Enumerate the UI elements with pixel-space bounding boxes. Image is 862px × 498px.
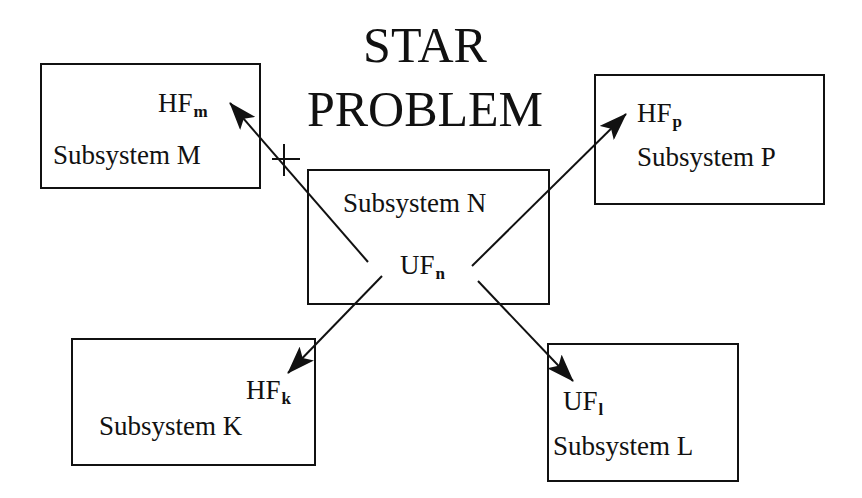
- subsystem-m-label: Subsystem M: [53, 140, 201, 170]
- subsystem-p-factor: HFp: [637, 98, 682, 137]
- subsystem-p-box: [594, 74, 825, 205]
- subsystem-k-label: Subsystem K: [99, 411, 242, 441]
- subsystem-k-factor: HFk: [246, 375, 291, 414]
- diagram-title: STAR PROBLEM: [290, 18, 560, 136]
- subsystem-m-box: [40, 63, 261, 189]
- subsystem-l-factor: UFl: [563, 386, 603, 425]
- subsystem-n-factor: UFn: [400, 250, 445, 289]
- factor-label: HF: [158, 88, 193, 118]
- subsystem-n-label: Subsystem N: [343, 188, 486, 218]
- factor-label: HF: [637, 98, 672, 128]
- factor-label: UF: [400, 250, 435, 280]
- title-line-1: STAR: [290, 18, 560, 72]
- factor-subscript: k: [282, 389, 291, 408]
- factor-subscript: l: [599, 400, 604, 419]
- factor-subscript: p: [673, 112, 682, 131]
- factor-label: UF: [563, 386, 598, 416]
- title-line-2: PROBLEM: [290, 82, 560, 136]
- factor-subscript: n: [436, 264, 445, 283]
- factor-subscript: m: [194, 102, 208, 121]
- subsystem-p-label: Subsystem P: [637, 142, 776, 172]
- factor-label: HF: [246, 375, 281, 405]
- subsystem-m-factor: HFm: [158, 88, 208, 127]
- subsystem-l-label: Subsystem L: [553, 431, 693, 461]
